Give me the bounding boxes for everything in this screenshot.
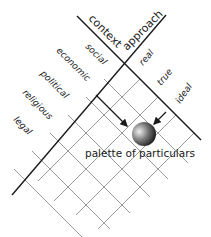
arrow-from-context — [96, 95, 127, 126]
approach-axis-label: approach — [120, 8, 166, 54]
context-item-religious: religious — [21, 87, 55, 121]
context-items: social economic political religious lega… — [12, 41, 110, 137]
context-approach-diagram: context approach social economic politic… — [0, 0, 211, 237]
palette-of-particulars-label: palette of particulars — [85, 147, 195, 159]
approach-item-ideal: ideal — [173, 81, 194, 105]
approach-item-true: true — [155, 66, 175, 87]
context-item-legal: legal — [12, 114, 35, 137]
approach-item-real: real — [137, 47, 156, 67]
context-item-political: political — [38, 68, 71, 101]
palette-sphere — [132, 122, 156, 146]
arrow-from-approach — [154, 112, 166, 124]
approach-items: real true ideal — [137, 47, 195, 105]
